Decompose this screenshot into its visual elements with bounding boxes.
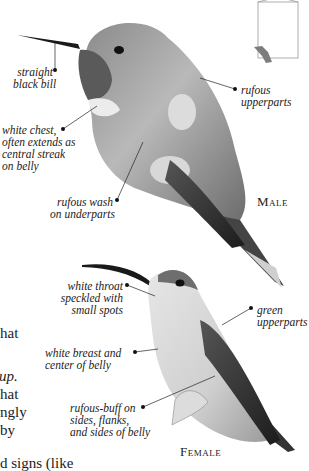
body-text-fragment: d signs (like [0, 456, 73, 471]
body-text-fragment: by [0, 423, 15, 438]
female-sex-label: Female [180, 444, 221, 460]
body-text-fragment: hat [0, 387, 18, 402]
callout-male-upperparts: rufous upperparts [241, 84, 291, 108]
callout-female-sides: rufous-buff on sides, flanks, and sides … [70, 402, 150, 438]
body-text-fragment: up. [0, 369, 18, 384]
callout-female-throat: white throat speckled with small spots [60, 280, 123, 316]
callout-male-chest: white chest, often extends as central st… [2, 124, 75, 172]
callout-male-bill: straight black bill [13, 66, 53, 90]
callout-female-upperparts: green upperparts [257, 304, 307, 328]
body-text-fragment: hat [0, 326, 18, 341]
page-locator-icon [254, 0, 298, 63]
callout-male-underparts: rufous wash on underparts [50, 196, 113, 220]
body-text-fragment: ngly [0, 405, 27, 420]
male-sex-label: Male [257, 194, 288, 210]
callout-female-breast: white breast and center of belly [45, 347, 121, 371]
